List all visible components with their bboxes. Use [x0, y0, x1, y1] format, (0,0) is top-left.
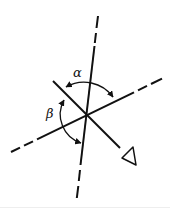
alpha-label: α [73, 65, 82, 80]
angle-diagram: α β [0, 0, 170, 211]
bottom-divider [0, 207, 170, 208]
beta-label: β [45, 106, 54, 121]
triangle-marker [122, 147, 136, 165]
viewing-direction-line [53, 81, 136, 165]
